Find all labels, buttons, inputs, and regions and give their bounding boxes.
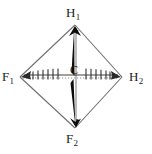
atom-element-f2: F bbox=[66, 131, 73, 146]
top-arrowhead bbox=[69, 26, 81, 36]
atom-element-f1: F bbox=[2, 69, 9, 84]
hash-marks-left bbox=[33, 68, 58, 79]
atom-subscript-h1: 1 bbox=[76, 12, 81, 22]
atom-label-h2: H2 bbox=[129, 70, 143, 86]
atom-subscript-f1: 1 bbox=[10, 76, 15, 86]
atom-label-f2: F2 bbox=[66, 132, 78, 148]
molecule-diagram: H1 F1 H2 F2 C bbox=[0, 0, 152, 154]
atom-element-h2: H bbox=[129, 69, 138, 84]
atom-subscript-f2: 2 bbox=[74, 138, 79, 148]
atom-label-h1: H1 bbox=[66, 6, 80, 22]
atom-element-h1: H bbox=[66, 5, 75, 20]
atom-label-c: C bbox=[70, 64, 78, 79]
atom-element-c: C bbox=[70, 63, 78, 77]
atom-label-f1: F1 bbox=[2, 70, 14, 86]
atom-subscript-h2: 2 bbox=[139, 76, 144, 86]
